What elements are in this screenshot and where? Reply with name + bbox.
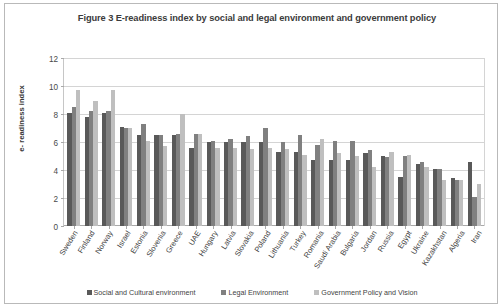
x-axis-label-cell: Norway xyxy=(98,228,116,284)
bar-group xyxy=(82,59,99,226)
bar-group xyxy=(291,59,308,226)
x-axis-labels: SwedenFinlandNorwayIsraelEstoniaSlovenia… xyxy=(63,228,485,284)
bar xyxy=(477,184,481,226)
bar xyxy=(337,153,341,226)
legend-label: Social and Cultural environment xyxy=(94,288,196,297)
bar-group xyxy=(431,59,448,226)
bar-group xyxy=(326,59,343,226)
x-axis-label-cell: Greece xyxy=(168,228,186,284)
bar-group xyxy=(413,59,430,226)
bar-group xyxy=(100,59,117,226)
x-axis-label-cell: Kazakhstan xyxy=(432,228,450,284)
bar-group xyxy=(448,59,465,226)
bar-group xyxy=(222,59,239,226)
bar xyxy=(250,149,254,226)
y-axis-tick-label: 12 xyxy=(38,55,58,64)
bar-group xyxy=(170,59,187,226)
bar xyxy=(389,152,393,226)
plot-area: 024681012 xyxy=(63,58,485,226)
bar-group xyxy=(65,59,82,226)
legend-swatch-icon xyxy=(221,290,226,295)
bar xyxy=(233,148,237,226)
bar-group xyxy=(396,59,413,226)
legend-label: Government Policy and Vision xyxy=(321,288,417,297)
bar xyxy=(320,139,324,226)
bar-group xyxy=(309,59,326,226)
bar-group xyxy=(187,59,204,226)
x-axis-label-cell: Saudi Arabia xyxy=(327,228,345,284)
legend-item[interactable]: Legal Environment xyxy=(221,288,288,297)
bar-group xyxy=(152,59,169,226)
bar-group xyxy=(204,59,221,226)
bar xyxy=(146,141,150,226)
bar xyxy=(215,148,219,226)
bar-group xyxy=(361,59,378,226)
bar-group xyxy=(135,59,152,226)
x-axis-tick-label: Algeria xyxy=(446,229,466,254)
bar xyxy=(407,155,411,226)
y-axis-tick-label: 2 xyxy=(38,195,58,204)
bar xyxy=(424,167,428,226)
x-axis-label-cell: Jordan xyxy=(362,228,380,284)
legend-label: Legal Environment xyxy=(228,288,288,297)
bar-group xyxy=(466,59,483,226)
y-axis-tick-label: 10 xyxy=(38,83,58,92)
bar xyxy=(198,134,202,226)
chart-legend: Social and Cultural environmentLegal Env… xyxy=(5,288,499,297)
x-axis-tick-label: Russia xyxy=(376,229,396,253)
x-axis-label-cell: Russia xyxy=(379,228,397,284)
bar-group xyxy=(274,59,291,226)
bar xyxy=(111,90,115,226)
bar xyxy=(355,156,359,226)
legend-swatch-icon xyxy=(87,290,92,295)
legend-item[interactable]: Social and Cultural environment xyxy=(87,288,196,297)
x-axis-label-cell: Slovakia xyxy=(239,228,257,284)
y-axis-tick-label: 8 xyxy=(38,111,58,120)
x-axis-tick-label: Sweden xyxy=(57,229,79,257)
x-axis-label-cell: Finland xyxy=(81,228,99,284)
bar-group xyxy=(117,59,134,226)
x-axis-label-cell: Iran xyxy=(467,228,485,284)
x-axis-label-cell: Israel xyxy=(116,228,134,284)
y-axis-label: e- readiness index xyxy=(17,64,26,174)
bar-group xyxy=(344,59,361,226)
bar xyxy=(163,146,167,226)
x-axis-label-cell: Sweden xyxy=(63,228,81,284)
bar-group xyxy=(239,59,256,226)
x-axis-label-cell: Bulgaria xyxy=(344,228,362,284)
bar xyxy=(372,167,376,226)
bar-groups xyxy=(64,59,484,226)
x-axis-tick-label: Jordan xyxy=(358,229,378,253)
chart-title: Figure 3 E-readiness index by social and… xyxy=(57,12,457,25)
bar xyxy=(459,180,463,226)
x-axis-label-cell: Lithuania xyxy=(274,228,292,284)
bar xyxy=(268,148,272,226)
x-axis-label-cell: Hungary xyxy=(204,228,222,284)
chart-container: Figure 3 E-readiness index by social and… xyxy=(4,3,498,304)
y-axis-tick-label: 0 xyxy=(38,223,58,232)
bar-group xyxy=(379,59,396,226)
x-axis-label-cell: Algeria xyxy=(450,228,468,284)
bar xyxy=(93,101,97,226)
legend-item[interactable]: Government Policy and Vision xyxy=(314,288,417,297)
bar xyxy=(302,155,306,226)
x-axis-label-cell: Slovenia xyxy=(151,228,169,284)
bar xyxy=(442,180,446,226)
x-axis-tick-label: Iran xyxy=(469,229,484,245)
x-axis-label-cell: Egypt xyxy=(397,228,415,284)
y-axis-tick-label: 6 xyxy=(38,139,58,148)
bar xyxy=(180,114,184,226)
y-axis-tick-label: 4 xyxy=(38,167,58,176)
bar-group xyxy=(257,59,274,226)
legend-swatch-icon xyxy=(314,290,319,295)
bar xyxy=(285,149,289,226)
x-axis-tick-label: UAE xyxy=(187,229,203,247)
bar xyxy=(128,128,132,226)
bar xyxy=(76,90,80,226)
y-axis-tick-mark xyxy=(61,226,64,227)
